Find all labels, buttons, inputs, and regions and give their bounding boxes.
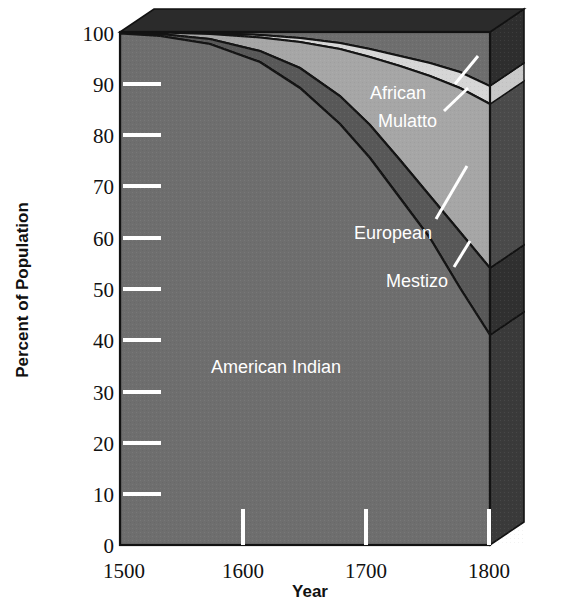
y-tick-label-90: 90 <box>93 73 114 97</box>
chart-3d-side-panel <box>490 9 524 545</box>
y-tick-label-50: 50 <box>93 278 114 302</box>
population-composition-chart: 100 90 80 70 60 50 40 30 20 10 0 1500 16… <box>0 0 575 600</box>
y-tick-label-70: 70 <box>93 175 114 199</box>
x-tick-label-1800: 1800 <box>468 559 510 583</box>
y-tick-label-100: 100 <box>83 22 115 46</box>
y-tick-label-30: 30 <box>93 381 114 405</box>
y-tick-label-40: 40 <box>93 329 114 353</box>
y-tick-label-10: 10 <box>93 483 114 507</box>
x-tick-label-1700: 1700 <box>345 559 387 583</box>
band-label-mestizo: Mestizo <box>386 271 448 291</box>
y-tick-label-20: 20 <box>93 432 114 456</box>
band-label-african: African <box>370 83 426 103</box>
band-label-american-indian: American Indian <box>211 357 341 377</box>
y-tick-label-80: 80 <box>93 124 114 148</box>
x-tick-label-1500: 1500 <box>103 559 145 583</box>
band-label-mulatto: Mulatto <box>378 111 437 131</box>
top-face-depth <box>120 9 524 32</box>
chart-svg: 100 90 80 70 60 50 40 30 20 10 0 1500 16… <box>0 0 575 600</box>
y-tick-label-60: 60 <box>93 227 114 251</box>
y-tick-label-0: 0 <box>104 534 115 558</box>
y-axis-title: Percent of Population <box>13 202 32 378</box>
x-axis-title: Year <box>292 582 328 600</box>
side-face-texture <box>490 9 524 545</box>
band-label-european: European <box>354 223 432 243</box>
x-tick-label-1600: 1600 <box>222 559 264 583</box>
